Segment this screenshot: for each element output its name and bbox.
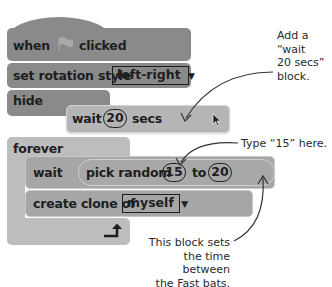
- type-15-note: Type “15” here.: [241, 137, 327, 151]
- when-label: when: [13, 38, 50, 53]
- wait-seconds-input[interactable]: 20: [103, 109, 127, 128]
- random-to-input[interactable]: 20: [208, 163, 232, 182]
- secs-label: secs: [132, 111, 162, 126]
- time-between-note: This block sets the time between the Fas…: [146, 236, 230, 287]
- green-flag-icon: [56, 36, 76, 56]
- mouse-cursor-icon: [212, 112, 222, 131]
- dropdown-arrow-icon: ▼: [188, 71, 195, 81]
- to-label: to: [192, 165, 206, 180]
- clicked-label: clicked: [79, 38, 126, 53]
- forever-label: forever: [13, 141, 63, 156]
- forever-arm: [7, 160, 25, 220]
- add-wait-note: Add a “wait 20 secs” block.: [277, 29, 324, 83]
- rotation-style-dropdown[interactable]: left-right ▼: [112, 66, 189, 85]
- dropdown-arrow-icon: ▼: [181, 199, 188, 209]
- random-from-input[interactable]: 15: [162, 163, 186, 182]
- clone-target-dropdown[interactable]: myself ▼: [122, 194, 180, 213]
- loop-arrow-icon: [102, 223, 124, 243]
- hide-label: hide: [13, 93, 43, 108]
- create-clone-label: create clone of: [33, 196, 135, 211]
- pick-random-label: pick random: [86, 165, 171, 180]
- wait-label: wait: [72, 111, 101, 126]
- wait-random-label: wait: [33, 165, 62, 180]
